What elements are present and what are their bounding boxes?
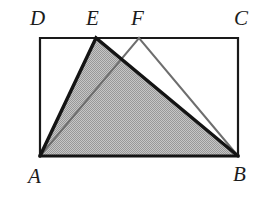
vertex-label-f: F [131,8,144,29]
vertex-label-d: D [30,8,45,29]
vertex-point-f [138,37,140,39]
geometry-figure: D E F C A B [0,0,271,203]
vertex-label-a: A [28,166,41,187]
vertex-label-e: E [86,8,99,29]
vertex-point-e [95,37,98,40]
vertex-label-c: C [234,8,248,29]
vertex-label-b: B [233,164,246,185]
